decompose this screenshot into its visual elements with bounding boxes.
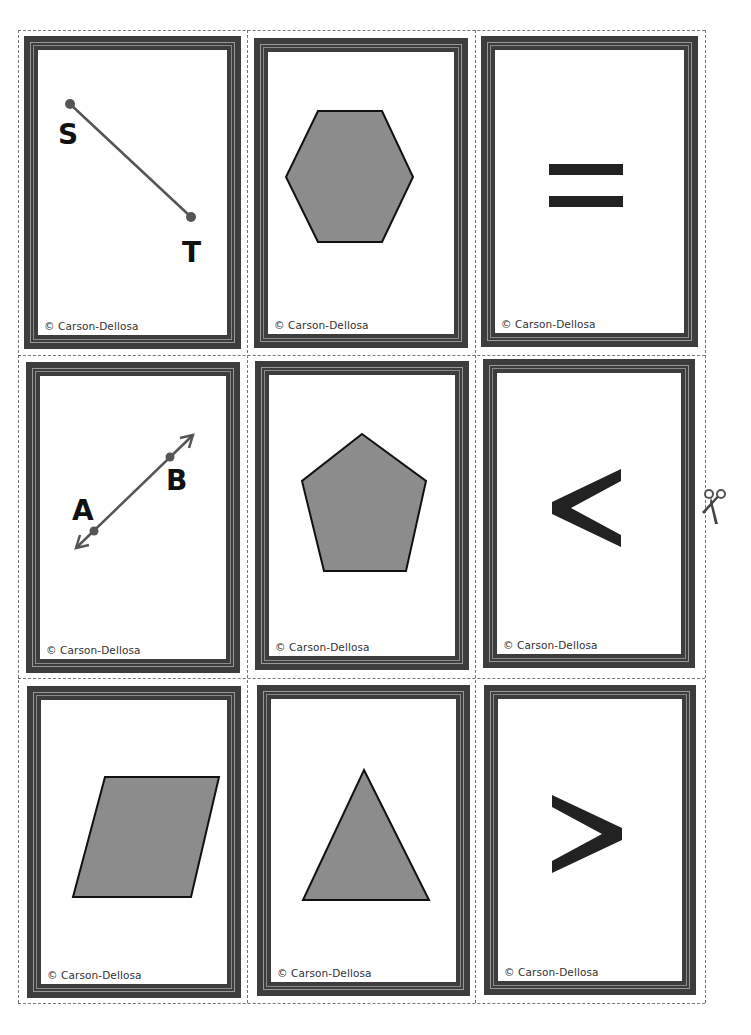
cut-line <box>475 30 476 1003</box>
label-a: A <box>72 494 94 527</box>
label-t: T <box>182 236 201 269</box>
hexagon-figure <box>268 52 454 334</box>
cut-line <box>18 355 705 356</box>
copyright: © Carson-Dellosa <box>504 966 599 978</box>
copyright: © Carson-Dellosa <box>277 967 372 979</box>
copyright: © Carson-Dellosa <box>44 320 139 332</box>
point-a <box>90 527 99 536</box>
card-hexagon: © Carson-Dellosa <box>254 38 468 348</box>
point-s <box>65 99 75 109</box>
copyright: © Carson-Dellosa <box>275 641 370 653</box>
cut-line <box>18 30 705 31</box>
copyright: © Carson-Dellosa <box>46 644 141 656</box>
line-ab-figure <box>40 376 226 659</box>
card-greater-than: © Carson-Dellosa <box>484 685 696 995</box>
copyright: © Carson-Dellosa <box>274 319 369 331</box>
copyright: © Carson-Dellosa <box>501 318 596 330</box>
label-b: B <box>166 464 187 497</box>
card-less-than: © Carson-Dellosa <box>483 359 695 668</box>
triangle-figure <box>271 699 456 982</box>
cut-line <box>247 30 248 1003</box>
pentagon-figure <box>269 375 455 656</box>
line-segment-st-figure <box>38 50 227 335</box>
card-parallelogram: © Carson-Dellosa <box>27 686 241 998</box>
cut-line <box>18 30 19 1003</box>
cut-line <box>18 678 705 679</box>
card-sheet: S T © Carson-Dellosa © Carson-Dellosa © … <box>0 0 751 1035</box>
card-triangle: © Carson-Dellosa <box>257 685 470 996</box>
card-line-segment-st: S T © Carson-Dellosa <box>24 36 241 349</box>
greater-than-symbol <box>498 699 682 981</box>
card-pentagon: © Carson-Dellosa <box>255 361 469 670</box>
copyright: © Carson-Dellosa <box>47 969 142 981</box>
card-equals: © Carson-Dellosa <box>481 36 698 347</box>
label-s: S <box>58 118 78 151</box>
less-than-symbol <box>497 373 681 654</box>
copyright: © Carson-Dellosa <box>503 639 598 651</box>
scissors-icon <box>700 488 728 526</box>
parallelogram-figure <box>41 700 227 984</box>
point-b <box>166 453 175 462</box>
point-t <box>186 212 196 222</box>
card-line-ab: A B © Carson-Dellosa <box>26 362 240 673</box>
cut-line <box>18 1003 705 1004</box>
equals-symbol <box>495 50 684 333</box>
